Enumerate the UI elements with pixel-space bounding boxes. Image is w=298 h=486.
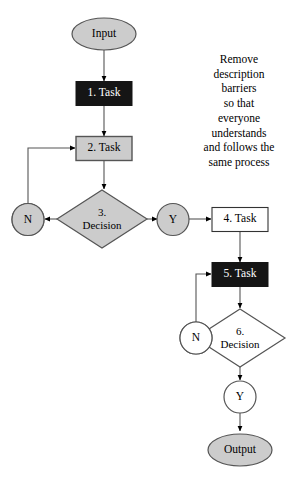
- edge-n6-feedback-to-task5: [196, 274, 211, 322]
- annotation-line: understands: [182, 126, 296, 141]
- node-decision3-shape: [57, 190, 147, 248]
- flowchart-canvas: Input 1. Task 2. Task 3. Decision N Y 4.…: [0, 0, 298, 486]
- annotation-line: Remove: [182, 52, 296, 67]
- node-input-shape: [72, 18, 136, 50]
- node-task5-shape: [212, 263, 268, 287]
- node-task2-shape: [76, 137, 132, 161]
- node-y3-shape: [157, 204, 189, 236]
- node-n3-shape-overlay: [12, 204, 44, 236]
- node-task1-shape: [76, 82, 132, 106]
- annotation-line: same process: [182, 155, 296, 170]
- annotation-line: barriers: [182, 81, 296, 96]
- annotation-line: description: [182, 67, 296, 82]
- node-y6-shape: [224, 381, 256, 413]
- annotation-line: everyone: [182, 111, 296, 126]
- node-n6-shape-overlay: [180, 322, 212, 354]
- annotation-line: and follows the: [182, 140, 296, 155]
- node-output-shape: [208, 434, 272, 466]
- annotation-text-block: Remove description barriers so that ever…: [182, 52, 296, 170]
- annotation-line: so that: [182, 96, 296, 111]
- node-task4-shape: [212, 208, 268, 232]
- edge-n3-feedback-to-task2: [28, 148, 75, 204]
